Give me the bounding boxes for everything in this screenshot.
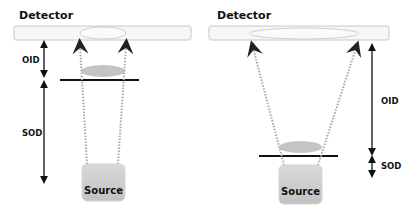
left-object-ellipse	[81, 65, 125, 77]
right-ray-right	[318, 48, 356, 165]
right-detector-image-ellipse	[250, 28, 358, 39]
magnification-diagram: Detector OID SOD Source Detector OID SOD	[0, 0, 413, 211]
right-detector-label: Detector	[217, 9, 272, 22]
left-detector-image-ellipse	[80, 27, 126, 39]
left-source-label: Source	[84, 185, 123, 196]
left-detector-label: Detector	[19, 9, 74, 22]
right-object-ellipse	[279, 141, 322, 153]
left-oid-label: OID	[22, 55, 39, 65]
left-panel: Detector OID SOD Source	[14, 9, 191, 201]
right-panel: Detector OID SOD Source	[209, 9, 401, 204]
left-sod-label: SOD	[22, 128, 42, 138]
left-ray-right	[118, 46, 126, 164]
right-sod-label: SOD	[381, 161, 401, 171]
right-source-box	[279, 165, 322, 204]
right-oid-label: OID	[381, 96, 398, 106]
right-source-label: Source	[281, 186, 320, 197]
right-ray-left	[253, 48, 284, 165]
left-ray-left	[80, 46, 87, 164]
